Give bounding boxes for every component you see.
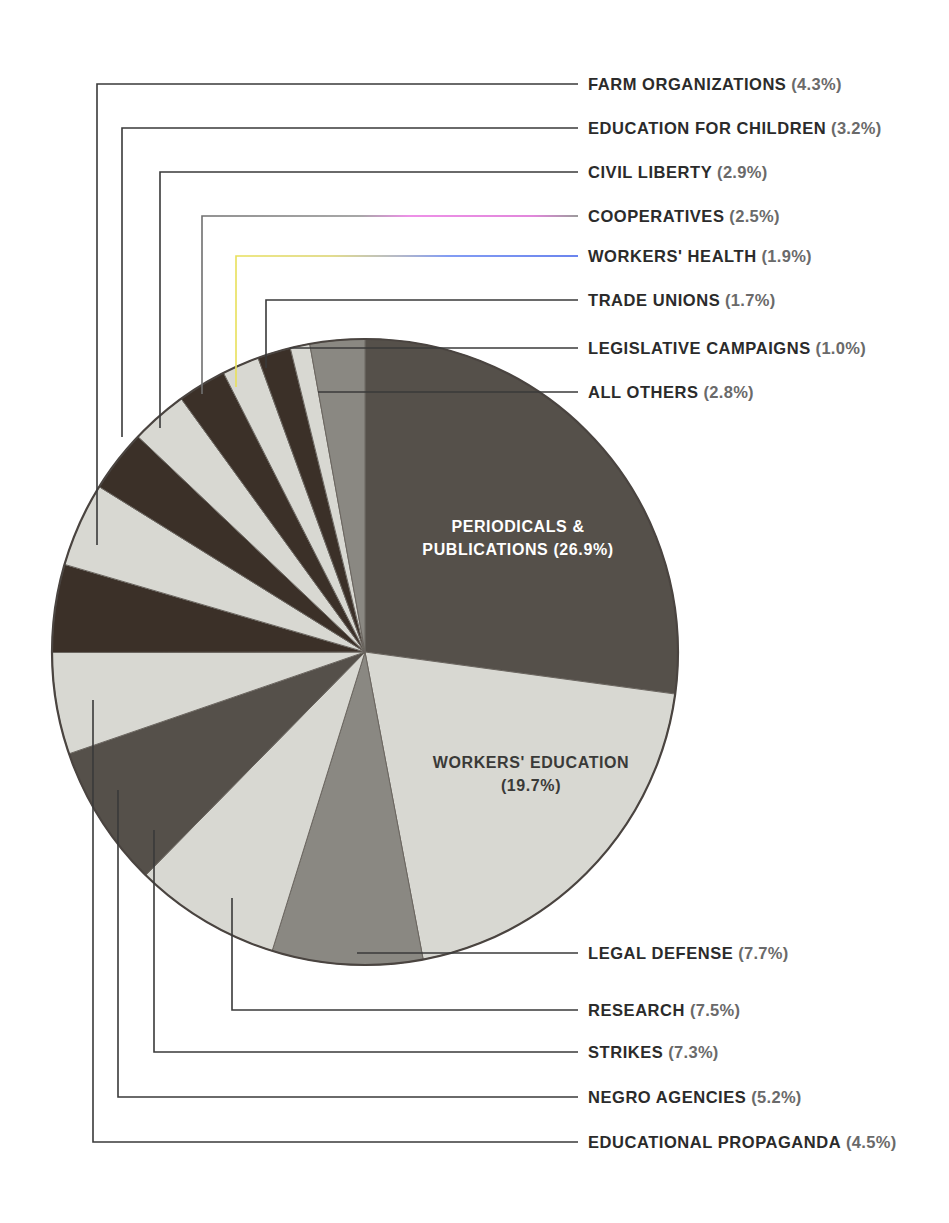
callout-label-civil-liberty: CIVIL LIBERTY (2.9%) — [588, 163, 768, 182]
callout-percent: (7.3%) — [663, 1043, 718, 1061]
callout-name: TRADE UNIONS — [588, 291, 720, 309]
callout-name: FARM ORGANIZATIONS — [588, 75, 786, 93]
chart-canvas: PERIODICALS & PUBLICATIONS (26.9%)WORKER… — [0, 0, 949, 1223]
callout-name: COOPERATIVES — [588, 207, 724, 225]
callout-name: ALL OTHERS — [588, 383, 699, 401]
callout-name: NEGRO AGENCIES — [588, 1088, 746, 1106]
callout-percent: (7.7%) — [733, 944, 788, 962]
callout-percent: (1.0%) — [811, 339, 866, 357]
callout-percent: (4.3%) — [786, 75, 841, 93]
callout-percent: (2.8%) — [699, 383, 754, 401]
callout-label-educational-propaganda: EDUCATIONAL PROPAGANDA (4.5%) — [588, 1133, 896, 1152]
callout-percent: (2.9%) — [712, 163, 767, 181]
callout-label-trade-unions: TRADE UNIONS (1.7%) — [588, 291, 775, 310]
callout-percent: (3.2%) — [826, 119, 881, 137]
callout-name: WORKERS' HEALTH — [588, 247, 757, 265]
callout-percent: (1.9%) — [757, 247, 812, 265]
callout-name: EDUCATION FOR CHILDREN — [588, 119, 826, 137]
callout-percent: (7.5%) — [685, 1001, 740, 1019]
callout-percent: (2.5%) — [724, 207, 779, 225]
pie-chart-svg — [0, 0, 949, 1223]
callout-name: RESEARCH — [588, 1001, 685, 1019]
inner-label-periodicals: PERIODICALS & PUBLICATIONS (26.9%) — [422, 516, 613, 561]
callout-percent: (5.2%) — [746, 1088, 801, 1106]
callout-label-farm-organizations: FARM ORGANIZATIONS (4.3%) — [588, 75, 842, 94]
callout-label-education-children: EDUCATION FOR CHILDREN (3.2%) — [588, 119, 882, 138]
callout-name: EDUCATIONAL PROPAGANDA — [588, 1133, 841, 1151]
callout-label-negro-agencies: NEGRO AGENCIES (5.2%) — [588, 1088, 802, 1107]
callout-label-strikes: STRIKES (7.3%) — [588, 1043, 719, 1062]
callout-percent: (4.5%) — [841, 1133, 896, 1151]
pie-slices — [52, 339, 678, 965]
callout-name: STRIKES — [588, 1043, 663, 1061]
callout-percent: (1.7%) — [720, 291, 775, 309]
callout-label-legislative-campaigns: LEGISLATIVE CAMPAIGNS (1.0%) — [588, 339, 866, 358]
callout-label-legal-defense: LEGAL DEFENSE (7.7%) — [588, 944, 789, 963]
callout-name: CIVIL LIBERTY — [588, 163, 712, 181]
callout-name: LEGAL DEFENSE — [588, 944, 733, 962]
callout-label-research: RESEARCH (7.5%) — [588, 1001, 740, 1020]
callout-label-cooperatives: COOPERATIVES (2.5%) — [588, 207, 780, 226]
callout-label-all-others: ALL OTHERS (2.8%) — [588, 383, 754, 402]
callout-name: LEGISLATIVE CAMPAIGNS — [588, 339, 811, 357]
inner-label-workers-education: WORKERS' EDUCATION (19.7%) — [433, 752, 630, 797]
callout-label-workers-health: WORKERS' HEALTH (1.9%) — [588, 247, 812, 266]
